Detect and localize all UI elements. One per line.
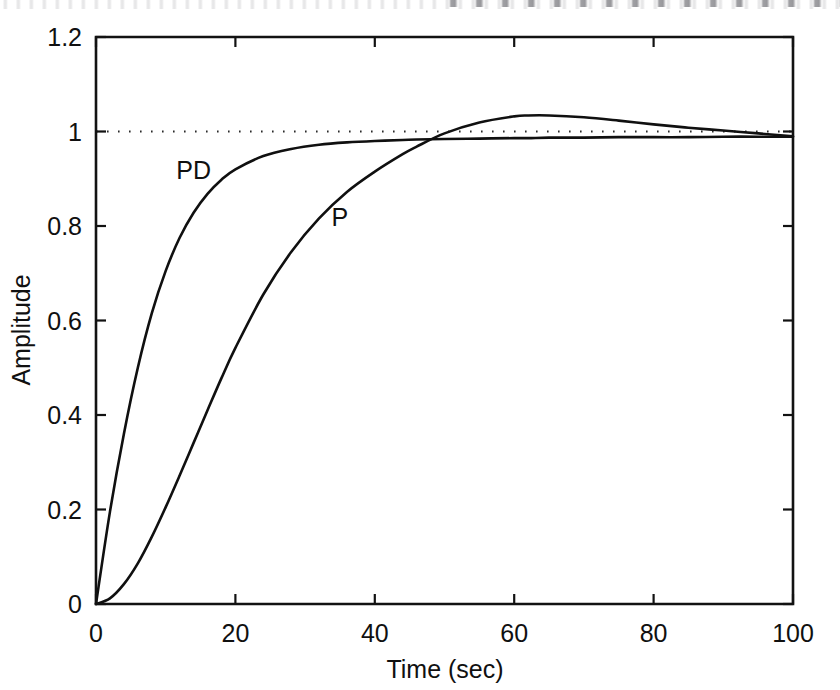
x-tick-label: 60 bbox=[500, 619, 528, 647]
x-tick-label: 20 bbox=[221, 619, 249, 647]
series-line-p bbox=[96, 115, 793, 604]
y-tick-label: 0.2 bbox=[47, 496, 82, 524]
x-tick-label: 0 bbox=[89, 619, 103, 647]
y-tick-label: 1 bbox=[68, 118, 82, 146]
y-tick-label: 1.2 bbox=[47, 23, 82, 51]
x-tick-label: 80 bbox=[640, 619, 668, 647]
series-annotation-p: P bbox=[332, 203, 349, 231]
x-axis-tick-labels: 020406080100 bbox=[89, 619, 814, 647]
y-tick-label: 0.8 bbox=[47, 212, 82, 240]
y-axis-ticks bbox=[96, 37, 793, 604]
y-axis-title: Amplitude bbox=[7, 274, 35, 385]
x-axis-ticks bbox=[96, 37, 793, 604]
x-tick-label: 40 bbox=[361, 619, 389, 647]
y-tick-label: 0.4 bbox=[47, 401, 82, 429]
chart-figure: 020406080100 00.20.40.60.811.2 Time (sec… bbox=[0, 0, 840, 690]
step-response-plot: 020406080100 00.20.40.60.811.2 Time (sec… bbox=[0, 0, 840, 690]
x-tick-label: 100 bbox=[772, 619, 814, 647]
y-tick-label: 0 bbox=[68, 590, 82, 618]
y-axis-tick-labels: 00.20.40.60.811.2 bbox=[47, 23, 82, 618]
y-tick-label: 0.6 bbox=[47, 307, 82, 335]
axis-box bbox=[96, 37, 793, 604]
x-axis-title: Time (sec) bbox=[386, 655, 503, 683]
series-line-pd bbox=[96, 137, 793, 604]
series-annotation-pd: PD bbox=[176, 156, 211, 184]
